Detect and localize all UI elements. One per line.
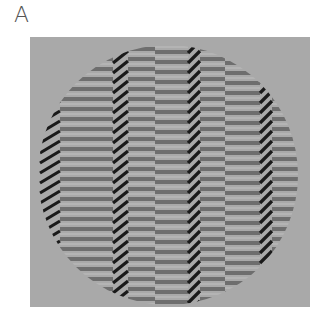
panel-label: A: [14, 2, 29, 28]
grating-stimulus: [30, 37, 310, 307]
grating-stimulus-figure: [30, 37, 310, 307]
